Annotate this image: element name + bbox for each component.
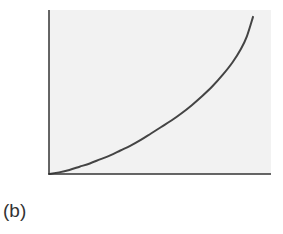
panel-label: (b) [3,200,26,222]
chart [0,0,283,234]
plot-area [49,10,271,174]
